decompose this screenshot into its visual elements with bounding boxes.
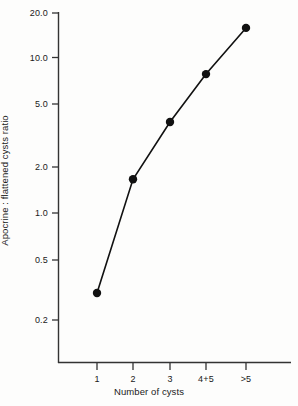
- data-point-markers: [93, 24, 250, 297]
- y-tick-label-1: 1.0: [20, 208, 48, 218]
- y-tick-label-20: 20.0: [20, 8, 48, 18]
- x-tick-label-gt5: >5: [241, 374, 252, 384]
- x-tick-marks: [97, 363, 246, 370]
- y-tick-label-2: 2.0: [20, 162, 48, 172]
- y-tick-label-5: 5.0: [20, 99, 48, 109]
- x-axis-title: Number of cysts: [0, 386, 298, 397]
- data-point: [202, 70, 210, 78]
- x-tick-label-4plus5: 4+5: [198, 374, 214, 384]
- data-point: [166, 118, 174, 126]
- y-axis-title: Apocrine : flattened cysts ratio: [0, 115, 10, 245]
- x-tick-label-3: 3: [167, 374, 172, 384]
- x-tick-label-1: 1: [94, 374, 99, 384]
- data-point: [129, 175, 137, 183]
- data-series-line: [97, 28, 246, 293]
- chart-figure: 20.0 10.0 5.0 2.0 1.0 0.5 0.2 1 2 3 4+5 …: [0, 0, 298, 406]
- x-tick-label-2: 2: [130, 374, 135, 384]
- y-tick-label-10: 10.0: [20, 53, 48, 63]
- data-point: [242, 24, 250, 32]
- data-point: [93, 289, 101, 297]
- y-tick-label-0-2: 0.2: [20, 315, 48, 325]
- y-tick-label-0-5: 0.5: [20, 255, 48, 265]
